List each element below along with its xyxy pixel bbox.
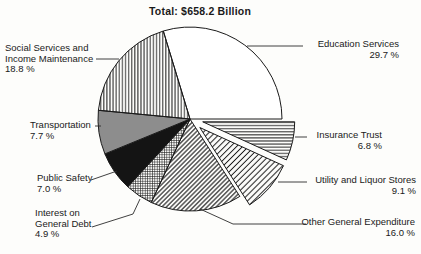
label-education-services-text: Education Services (279, 39, 399, 50)
label-utility-liquor-stores-text: Utility and Liquor Stores (286, 175, 416, 186)
label-transportation: Transportation 7.7 % (30, 120, 120, 141)
label-social-services-income-maintenance-text: Social Services and Income Maintenance (5, 43, 115, 64)
label-insurance-trust-text: Insurance Trust (272, 130, 382, 141)
label-insurance-trust-pct: 6.8 % (272, 141, 382, 152)
label-other-general-expenditure: Other General Expenditure 16.0 % (285, 217, 415, 238)
label-social-services-income-maintenance: Social Services and Income Maintenance 1… (5, 43, 115, 75)
label-transportation-pct: 7.7 % (30, 131, 120, 142)
label-other-general-expenditure-text: Other General Expenditure (285, 217, 415, 228)
label-insurance-trust: Insurance Trust 6.8 % (272, 130, 382, 151)
label-education-services-pct: 29.7 % (279, 50, 399, 61)
label-interest-general-debt: Interest on General Debt 4.9 % (35, 208, 125, 240)
pie-chart-figure: Total: $658.2 Billion (0, 0, 421, 254)
pie-slices-group (98, 27, 295, 211)
label-public-safety-pct: 7.0 % (37, 184, 127, 195)
label-interest-general-debt-pct: 4.9 % (35, 229, 125, 240)
label-education-services: Education Services 29.7 % (279, 39, 399, 60)
label-utility-liquor-stores: Utility and Liquor Stores 9.1 % (286, 175, 416, 196)
label-interest-general-debt-text: Interest on General Debt (35, 208, 125, 229)
label-other-general-expenditure-pct: 16.0 % (285, 228, 415, 239)
label-utility-liquor-stores-pct: 9.1 % (286, 186, 416, 197)
label-transportation-text: Transportation (30, 120, 120, 131)
label-public-safety: Public Safety 7.0 % (37, 173, 127, 194)
label-social-services-income-maintenance-pct: 18.8 % (5, 64, 115, 75)
label-public-safety-text: Public Safety (37, 173, 127, 184)
